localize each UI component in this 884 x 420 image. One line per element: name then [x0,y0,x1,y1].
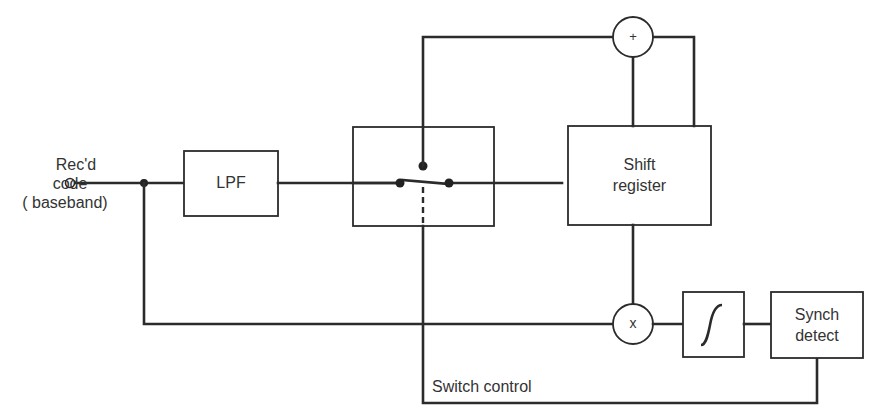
shift-register-label-line-1: Shift [568,154,711,175]
synch-detect-label-line-2: detect [771,325,863,346]
adder-symbol: + [623,27,643,46]
shift-register-label-line-2: register [568,175,711,196]
switch-control-label: Switch control [432,377,532,396]
input-label-line-1: Rec'd [36,155,116,174]
input-label-line-3: ( baseband) [14,193,116,212]
multiplier-symbol: x [623,314,643,333]
shift-register-label: Shift register [568,154,711,196]
input-label: Rec'd code ( baseband) [36,155,116,212]
synch-detect-label: Synch detect [771,304,863,346]
switch-contact-right-icon [445,179,454,188]
input-label-line-2: code [36,174,104,193]
switch-blade [403,180,449,184]
block-diagram [0,0,884,420]
switch-contact-left-icon [396,179,405,188]
integrator-block [683,292,744,357]
lpf-label: LPF [184,173,278,192]
synch-detect-label-line-1: Synch [771,304,863,325]
adder-feedback-wire [653,37,694,126]
